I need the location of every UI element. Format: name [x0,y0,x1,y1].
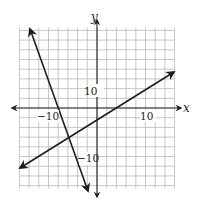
x-tick-label-10: 10 [140,110,153,122]
y-tick-label-neg10: −10 [77,152,99,164]
coordinate-plane: 10 −10 10 −10 x y [0,0,197,208]
y-axis-label: y [90,10,98,24]
x-tick-label-neg10: −10 [37,110,59,122]
y-tick-label-10: 10 [84,85,97,97]
x-axis-label: x [183,101,190,115]
